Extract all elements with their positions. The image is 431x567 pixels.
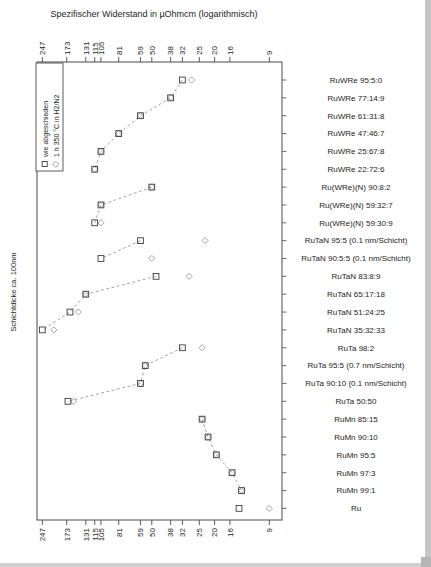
category-label: RuMn 99:1 [336,486,376,495]
category-label: RuWRe 22:72:6 [328,165,385,174]
x-tick-label-bottom: 131 [82,527,91,541]
category-label: RuTa 50:50 [336,397,377,406]
data-point-annealed-diamond [186,273,192,279]
x-tick-label-top: 16 [226,46,235,55]
category-label: RuTaN 35:32:33 [327,326,385,335]
category-label: RuWRe 61:31:8 [328,112,385,121]
plot-content: 2472471731731311311151151051058181595950… [38,41,411,541]
x-tick-label-top: 32 [178,46,187,55]
x-tick-label-top: 25 [195,46,204,55]
plot-border [37,62,282,520]
x-tick-label-top: 50 [148,46,157,55]
x-tick-label-bottom: 16 [226,527,235,536]
category-label: RuTaN 51:24:25 [327,308,385,317]
data-point-annealed-diamond [51,327,57,333]
data-point-annealed-diamond [149,255,155,261]
data-point-annealed-diamond [266,505,272,511]
data-point-annealed-diamond [168,95,174,101]
x-tick-label-bottom: 20 [210,527,219,536]
category-label: Ru(WRe)(N) 59:32:7 [319,201,393,210]
series-connector-line [95,80,183,169]
category-label: RuTa 90:10 (0.1 nm/Schicht) [305,379,407,388]
category-label: RuTaN 65:17:18 [327,290,385,299]
category-label: RuWRe 47:46:7 [328,129,385,138]
data-point-annealed-diamond [98,202,104,208]
x-tick-label-top: 20 [210,46,219,55]
data-point-annealed-diamond [202,238,208,244]
x-tick-label-top: 131 [82,41,91,55]
scan-page-edge-bottom [0,563,431,567]
data-point-asdeposited-square [153,273,159,279]
data-point-asdeposited-square [39,327,45,333]
x-tick-label-top: 9 [265,50,274,55]
series-connector-line [202,419,241,490]
data-point-asdeposited-square [168,95,174,101]
category-label: RuWRe 95:5:0 [330,76,383,85]
x-tick-label-bottom: 173 [63,527,72,541]
category-label: RuWRe 25:67:8 [328,147,385,156]
legend-label-as-deposited: wie abgeschieden [42,101,50,158]
x-tick-label-top: 105 [97,41,106,55]
category-label: RuMn 97:3 [336,469,376,478]
data-point-asdeposited-square [92,166,98,172]
category-label: RuTa 98:2 [338,344,375,353]
category-label: RuWRe 77:14:9 [328,94,385,103]
series-connector-line [42,276,156,330]
x-tick-label-bottom: 105 [97,527,106,541]
category-label: Ru(WRe)(N) 59:30:9 [319,219,393,228]
series-connector-line [101,241,141,259]
x-tick-label-top: 173 [63,41,72,55]
x-tick-label-bottom: 32 [178,527,187,536]
category-label: RuMn 90:10 [334,433,378,442]
data-point-annealed-diamond [142,363,148,369]
legend: wie abgeschieden 1 h 350 °C in H2/N2 [36,63,63,171]
data-point-annealed-diamond [98,220,104,226]
data-point-annealed-diamond [188,77,194,83]
data-point-asdeposited-square [142,363,148,369]
x-tick-label-top: 59 [136,46,145,55]
category-label: RuMn 85:15 [334,415,378,424]
scan-page-edge-corner [421,557,431,567]
x-tick-label-bottom: 9 [265,527,274,532]
scan-page-edge-right [425,0,431,567]
left-axis-label: Schichtdicke ca. 100nm [9,252,18,331]
series-connector-line [95,187,152,223]
resistivity-dotplot: Spezifischer Widerstand in µOhmcm (logar… [0,0,431,567]
series-connector-line [68,348,182,402]
category-label: RuTa 95:5 (0.7 nm/Schicht) [308,361,405,370]
x-tick-label-bottom: 81 [115,527,124,536]
x-tick-label-top: 247 [38,41,47,55]
legend-label-annealed: 1 h 350 °C in H2/N2 [53,95,60,157]
category-label: RuTaN 83:8:9 [332,272,381,281]
data-point-asdeposited-square [138,238,144,244]
scanned-chart-page: Spezifischer Widerstand in µOhmcm (logar… [0,0,431,567]
category-label: RuTaN 90:5:5 (0.1 nm/Schicht) [301,254,411,263]
data-point-annealed-diamond [92,166,98,172]
x-tick-label-bottom: 38 [166,527,175,536]
x-tick-label-bottom: 247 [38,527,47,541]
category-label: Ru(WRe)(N) 90:8:2 [322,183,391,192]
x-tick-label-bottom: 25 [195,527,204,536]
data-point-asdeposited-square [98,202,104,208]
chart-title: Spezifischer Widerstand in µOhmcm (logar… [50,9,257,19]
data-point-asdeposited-square [236,506,242,512]
category-label: RuTaN 95:5 (0.1 nm/Schicht) [305,236,408,245]
category-label: RuMn 95:5 [336,451,376,460]
category-label: Ru [351,504,361,513]
data-point-annealed-diamond [75,309,81,315]
data-point-annealed-diamond [199,345,205,351]
x-tick-label-top: 81 [115,46,124,55]
x-tick-label-bottom: 50 [148,527,157,536]
x-tick-label-top: 38 [166,46,175,55]
x-tick-label-bottom: 59 [136,527,145,536]
data-point-annealed-diamond [229,470,235,476]
